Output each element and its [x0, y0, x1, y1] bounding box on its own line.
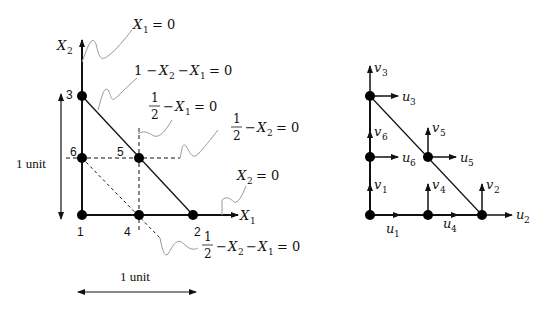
svg-text:X: X — [236, 168, 247, 183]
svg-text:= 0: = 0 — [209, 63, 232, 78]
svg-text:1: 1 — [268, 247, 274, 257]
svg-text:−: − — [245, 120, 256, 135]
annotation-x1-equals-zero: X 1 = 0 — [132, 17, 175, 35]
x1-axis-label: X 1 — [239, 208, 256, 226]
node-label-3: 3 — [66, 88, 73, 102]
svg-text:5: 5 — [440, 128, 446, 138]
svg-text:1: 1 — [233, 112, 241, 126]
leader-x1-zero — [82, 30, 132, 62]
svg-text:−: − — [163, 99, 174, 114]
right-node-6 — [365, 152, 375, 162]
svg-text:1: 1 — [250, 216, 256, 226]
leader-half-x1 — [139, 120, 172, 136]
dof-label-v4: v 4 — [432, 177, 446, 195]
svg-text:v: v — [374, 124, 382, 139]
svg-text:−: − — [178, 63, 189, 78]
svg-text:3: 3 — [410, 97, 416, 107]
node-3 — [77, 91, 87, 101]
svg-text:1 −: 1 − — [134, 63, 157, 78]
svg-text:v: v — [432, 120, 440, 135]
dof-label-v6: v 6 — [374, 124, 388, 142]
svg-text:= 0: = 0 — [277, 239, 300, 254]
svg-text:6: 6 — [382, 132, 388, 142]
svg-text:= 0: = 0 — [194, 99, 217, 114]
svg-text:2: 2 — [267, 128, 273, 138]
svg-text:v: v — [374, 60, 382, 75]
svg-text:X: X — [239, 208, 250, 223]
right-diagram: u 1 v 1 u 4 v 4 u 2 v 2 u 6 v 6 — [365, 60, 530, 239]
node-label-5: 5 — [117, 145, 124, 159]
svg-text:= 0: = 0 — [276, 120, 299, 135]
dof-label-u3: u 3 — [402, 89, 416, 107]
node-1 — [77, 210, 87, 220]
svg-text:X: X — [56, 38, 67, 53]
svg-text:= 0: = 0 — [256, 168, 279, 183]
right-node-5 — [423, 152, 433, 162]
leader-hypotenuse — [98, 78, 137, 110]
right-node-2 — [477, 210, 487, 220]
svg-text:2: 2 — [247, 176, 253, 186]
left-diagram: 1 2 3 4 5 6 X 2 X 1 X 1 = 0 — [16, 17, 300, 292]
svg-text:= 0: = 0 — [152, 17, 175, 32]
right-node-1 — [365, 210, 375, 220]
svg-text:1: 1 — [185, 107, 191, 117]
svg-text:1: 1 — [394, 229, 400, 239]
svg-text:1: 1 — [204, 230, 212, 244]
svg-text:X: X — [132, 17, 143, 32]
annotation-half-minus-x2: 1 2 − X 2 = 0 — [231, 112, 299, 143]
svg-text:4: 4 — [440, 185, 446, 195]
node-label-1: 1 — [77, 225, 84, 239]
node-label-4: 4 — [124, 225, 131, 239]
svg-text:X: X — [174, 99, 185, 114]
svg-text:X: X — [257, 239, 268, 254]
svg-text:4: 4 — [451, 224, 457, 234]
svg-text:X: X — [256, 120, 267, 135]
vertical-dimension-label: 1 unit — [16, 156, 46, 171]
right-node-4 — [423, 210, 433, 220]
x2-axis-label: X 2 — [56, 38, 73, 56]
dof-label-v3: v 3 — [374, 60, 388, 78]
dof-label-u5: u 5 — [460, 150, 474, 168]
svg-text:v: v — [486, 177, 494, 192]
node-5 — [134, 153, 144, 163]
dof-label-v5: v 5 — [432, 120, 446, 138]
annotation-half-minus-x1: 1 2 − X 1 = 0 — [149, 91, 217, 122]
dof-label-v2: v 2 — [486, 177, 500, 195]
svg-text:3: 3 — [382, 68, 388, 78]
svg-text:1: 1 — [382, 185, 388, 195]
dof-label-u4: u 4 — [443, 216, 457, 234]
svg-text:−: − — [246, 239, 257, 254]
svg-text:2: 2 — [238, 247, 244, 257]
diagram-canvas: 1 2 3 4 5 6 X 2 X 1 X 1 = 0 — [0, 0, 547, 312]
svg-text:X: X — [227, 239, 238, 254]
svg-text:2: 2 — [204, 247, 212, 261]
svg-text:2: 2 — [524, 215, 530, 225]
svg-text:2: 2 — [169, 71, 175, 81]
annotation-hypotenuse: 1 − X 2 − X 1 = 0 — [134, 63, 232, 81]
dof-label-v1: v 1 — [374, 177, 388, 195]
svg-text:−: − — [216, 239, 227, 254]
svg-text:v: v — [432, 177, 440, 192]
node-label-6: 6 — [70, 145, 77, 159]
svg-text:2: 2 — [233, 129, 241, 143]
node-6 — [77, 153, 87, 163]
horizontal-dimension-label: 1 unit — [120, 269, 150, 284]
svg-text:2: 2 — [151, 108, 159, 122]
leader-half-diag — [160, 238, 198, 255]
dof-label-u1: u 1 — [386, 221, 400, 239]
svg-text:2: 2 — [67, 46, 73, 56]
right-node-3 — [365, 91, 375, 101]
annotation-half-diagonal: 1 2 − X 2 − X 1 = 0 — [202, 230, 300, 261]
svg-text:1: 1 — [143, 25, 149, 35]
svg-text:v: v — [374, 177, 382, 192]
node-4 — [134, 210, 144, 220]
node-2 — [188, 210, 198, 220]
half-diagonal-line — [82, 158, 160, 238]
dof-label-u6: u 6 — [402, 150, 416, 168]
dof-label-u2: u 2 — [516, 207, 530, 225]
svg-text:X: X — [158, 63, 169, 78]
svg-text:6: 6 — [410, 158, 416, 168]
svg-text:5: 5 — [468, 158, 474, 168]
leader-half-x2 — [180, 130, 218, 158]
svg-text:1: 1 — [151, 91, 159, 105]
